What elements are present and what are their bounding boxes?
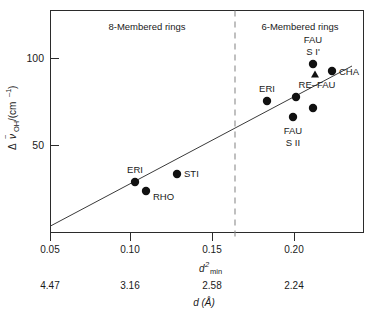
chart-figure: 8-Membered rings 6-Membered rings ERI RH… — [0, 0, 384, 309]
region-label-6-membered: 6-Membered rings — [261, 21, 338, 32]
y-axis-label-tilde: ~ — [1, 134, 10, 139]
data-point-fau-s2[interactable] — [289, 113, 297, 121]
y-axis-label-subscript: OH — [12, 121, 21, 132]
point-label-fau-s2-line1: FAU — [284, 125, 303, 136]
point-label-eri-right: ERI — [259, 83, 275, 94]
y-axis-ticks — [51, 59, 59, 146]
data-point-fau-s1[interactable] — [309, 60, 317, 68]
d-tick-label-2-58: 2.58 — [202, 280, 222, 291]
data-point-rho[interactable] — [142, 187, 150, 195]
data-point-eri-right[interactable] — [263, 97, 271, 105]
x-axis-label-subscript: min — [210, 267, 222, 276]
trend-line — [51, 66, 353, 226]
data-point-eri-left[interactable] — [131, 178, 139, 186]
data-point-re-fau-triangle[interactable] — [311, 71, 319, 78]
data-point-sti[interactable] — [173, 170, 181, 178]
x-tick-label-0-10: 0.10 — [120, 244, 140, 255]
data-point-cha[interactable] — [328, 67, 336, 75]
y-axis-label-units: /(cm — [7, 102, 18, 121]
y-axis-label-delta: Δ — [7, 143, 18, 150]
d-tick-label-2-24: 2.24 — [284, 280, 304, 291]
y-tick-label-50: 50 — [32, 139, 44, 151]
point-label-fau-s1-line1: FAU — [304, 34, 323, 45]
y-axis-label-paren: ) — [7, 86, 18, 89]
point-label-eri-left: ERI — [127, 164, 143, 175]
x-tick-label-0-05: 0.05 — [40, 244, 60, 255]
point-label-cha: CHA — [339, 66, 360, 77]
y-axis-label: Δ ν ~ OH /(cm –1 ) — [1, 86, 21, 150]
point-label-rho: RHO — [153, 191, 174, 202]
scatter-plot-svg: 8-Membered rings 6-Membered rings ERI RH… — [0, 0, 384, 309]
x-tick-label-0-15: 0.15 — [202, 244, 222, 255]
d-axis-label: d (Å) — [193, 296, 215, 308]
d-tick-label-4-47: 4.47 — [40, 280, 60, 291]
point-label-sti: STI — [184, 168, 199, 179]
point-label-re-fau: RE–FAU — [299, 79, 336, 90]
point-label-fau-s1-line2: S I' — [306, 46, 320, 57]
d-tick-label-3-16: 3.16 — [120, 280, 140, 291]
x-tick-label-0-20: 0.20 — [284, 244, 304, 255]
point-label-fau-s2-line2: S II — [286, 137, 300, 148]
data-point-lower-right[interactable] — [309, 104, 317, 112]
region-label-8-membered: 8-Membered rings — [108, 21, 185, 32]
data-point-mid[interactable] — [292, 93, 300, 101]
x-axis-ticks — [51, 233, 295, 241]
y-tick-label-100: 100 — [26, 52, 44, 64]
x-axis-label: d 2 min — [199, 260, 222, 276]
